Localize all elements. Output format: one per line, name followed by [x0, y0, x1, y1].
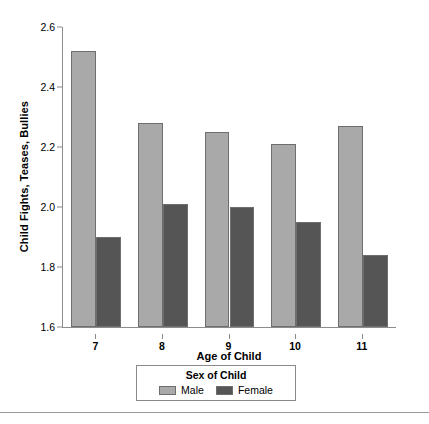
x-tick-mark	[229, 334, 230, 339]
x-tick-mark	[95, 334, 96, 339]
legend-title: Sex of Child	[143, 369, 289, 381]
y-tick-label: 2.4	[40, 81, 55, 93]
x-tick-mark	[295, 334, 296, 339]
legend-items: MaleFemale	[143, 384, 289, 396]
bar-male-age-9	[205, 132, 230, 327]
bar-series-layer	[63, 27, 396, 327]
chart-legend: Sex of Child MaleFemale	[136, 365, 296, 401]
x-axis-line	[62, 327, 396, 328]
x-tick-mark	[362, 334, 363, 339]
bar-female-age-10	[296, 222, 321, 327]
bar-male-age-8	[138, 123, 163, 327]
y-tick-label: 2.6	[40, 21, 55, 33]
bottom-divider	[0, 412, 429, 413]
y-axis-title-text: Child Fights, Teases, Bullies	[18, 101, 30, 252]
y-axis-title: Child Fights, Teases, Bullies	[14, 24, 34, 330]
legend-label-male: Male	[181, 384, 204, 396]
x-tick-mark	[162, 334, 163, 339]
bar-male-age-11	[338, 126, 363, 327]
x-axis-title: Age of Child	[62, 350, 396, 362]
legend-swatch-male	[159, 386, 176, 395]
legend-label-female: Female	[238, 384, 273, 396]
bar-female-age-9	[230, 207, 255, 327]
bar-male-age-10	[271, 144, 296, 327]
plot-area: 1.61.82.02.22.42.6 7891011	[36, 22, 396, 334]
y-tick-label: 2.0	[40, 201, 55, 213]
legend-swatch-female	[216, 386, 233, 395]
y-tick-label: 2.2	[40, 141, 55, 153]
bar-female-age-7	[96, 237, 121, 327]
y-tick-label: 1.8	[40, 261, 55, 273]
y-axis-ticks: 1.61.82.02.22.42.6	[36, 22, 62, 334]
chart-figure: Child Fights, Teases, Bullies 1.61.82.02…	[0, 0, 429, 424]
bar-female-age-8	[163, 204, 188, 327]
legend-item-male: Male	[159, 384, 204, 396]
legend-item-female: Female	[216, 384, 273, 396]
y-tick-label: 1.6	[40, 321, 55, 333]
bar-female-age-11	[363, 255, 388, 327]
bar-male-age-7	[71, 51, 96, 327]
axis-lines	[62, 22, 396, 334]
